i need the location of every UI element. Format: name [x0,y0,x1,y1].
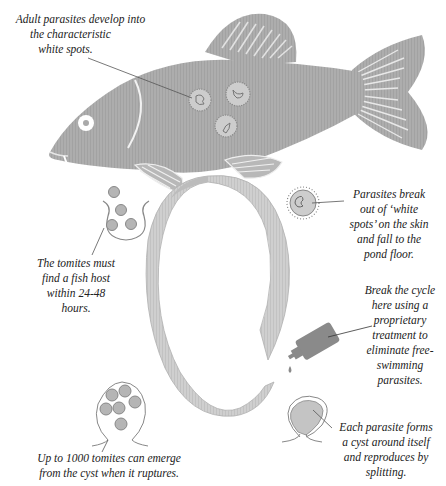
label-line: within 24-48 [28,286,124,301]
label-line: spots’ on the skin [334,217,444,232]
label-line: Up to 1000 tomites can emerge [4,451,214,466]
label-line: and reproduces by [328,450,444,465]
label-line: treatment to [356,328,444,343]
label-line: out of ‘white [334,202,444,217]
label-line: The tomites must [28,256,124,271]
label-tomites-host: The tomites must find a fish host within… [28,256,124,316]
label-cyst-forms: Each parasite forms a cyst around itself… [328,420,444,480]
label-line: splitting. [328,465,444,480]
label-line: the characteristic [8,27,153,42]
label-line: hours. [28,301,124,316]
label-line: here using a [356,298,444,313]
label-line: a cyst around itself [328,435,444,450]
label-line: and fall to the [334,232,444,247]
parasite-spot-icon [215,115,237,137]
label-line: eliminate free- [356,343,444,358]
label-break-out: Parasites break out of ‘white spots’ on … [334,187,444,262]
label-line: white spots. [8,42,153,57]
label-line: pond floor. [334,247,444,262]
label-line: parasites. [356,373,444,388]
parasite-spot-icon [189,89,211,111]
tomites-icon [92,187,149,256]
label-line: Adult parasites develop into [8,12,153,27]
cycle-ring [146,176,289,417]
label-line: from the cyst when it ruptures. [4,466,214,481]
ruptured-cyst-icon [92,382,148,452]
label-line: Parasites break [334,187,444,202]
label-line: Break the cycle [356,283,444,298]
label-adult-parasites: Adult parasites develop into the charact… [8,12,153,57]
label-line: Each parasite forms [328,420,444,435]
label-treatment: Break the cycle here using a proprietary… [356,283,444,388]
label-cyst-rupture: Up to 1000 tomites can emerge from the c… [4,451,214,481]
label-line: find a fish host [28,271,124,286]
label-line: swimming [356,358,444,373]
label-line: proprietary [356,313,444,328]
parasite-spot-icon [226,82,250,106]
cyst-icon [282,396,332,442]
